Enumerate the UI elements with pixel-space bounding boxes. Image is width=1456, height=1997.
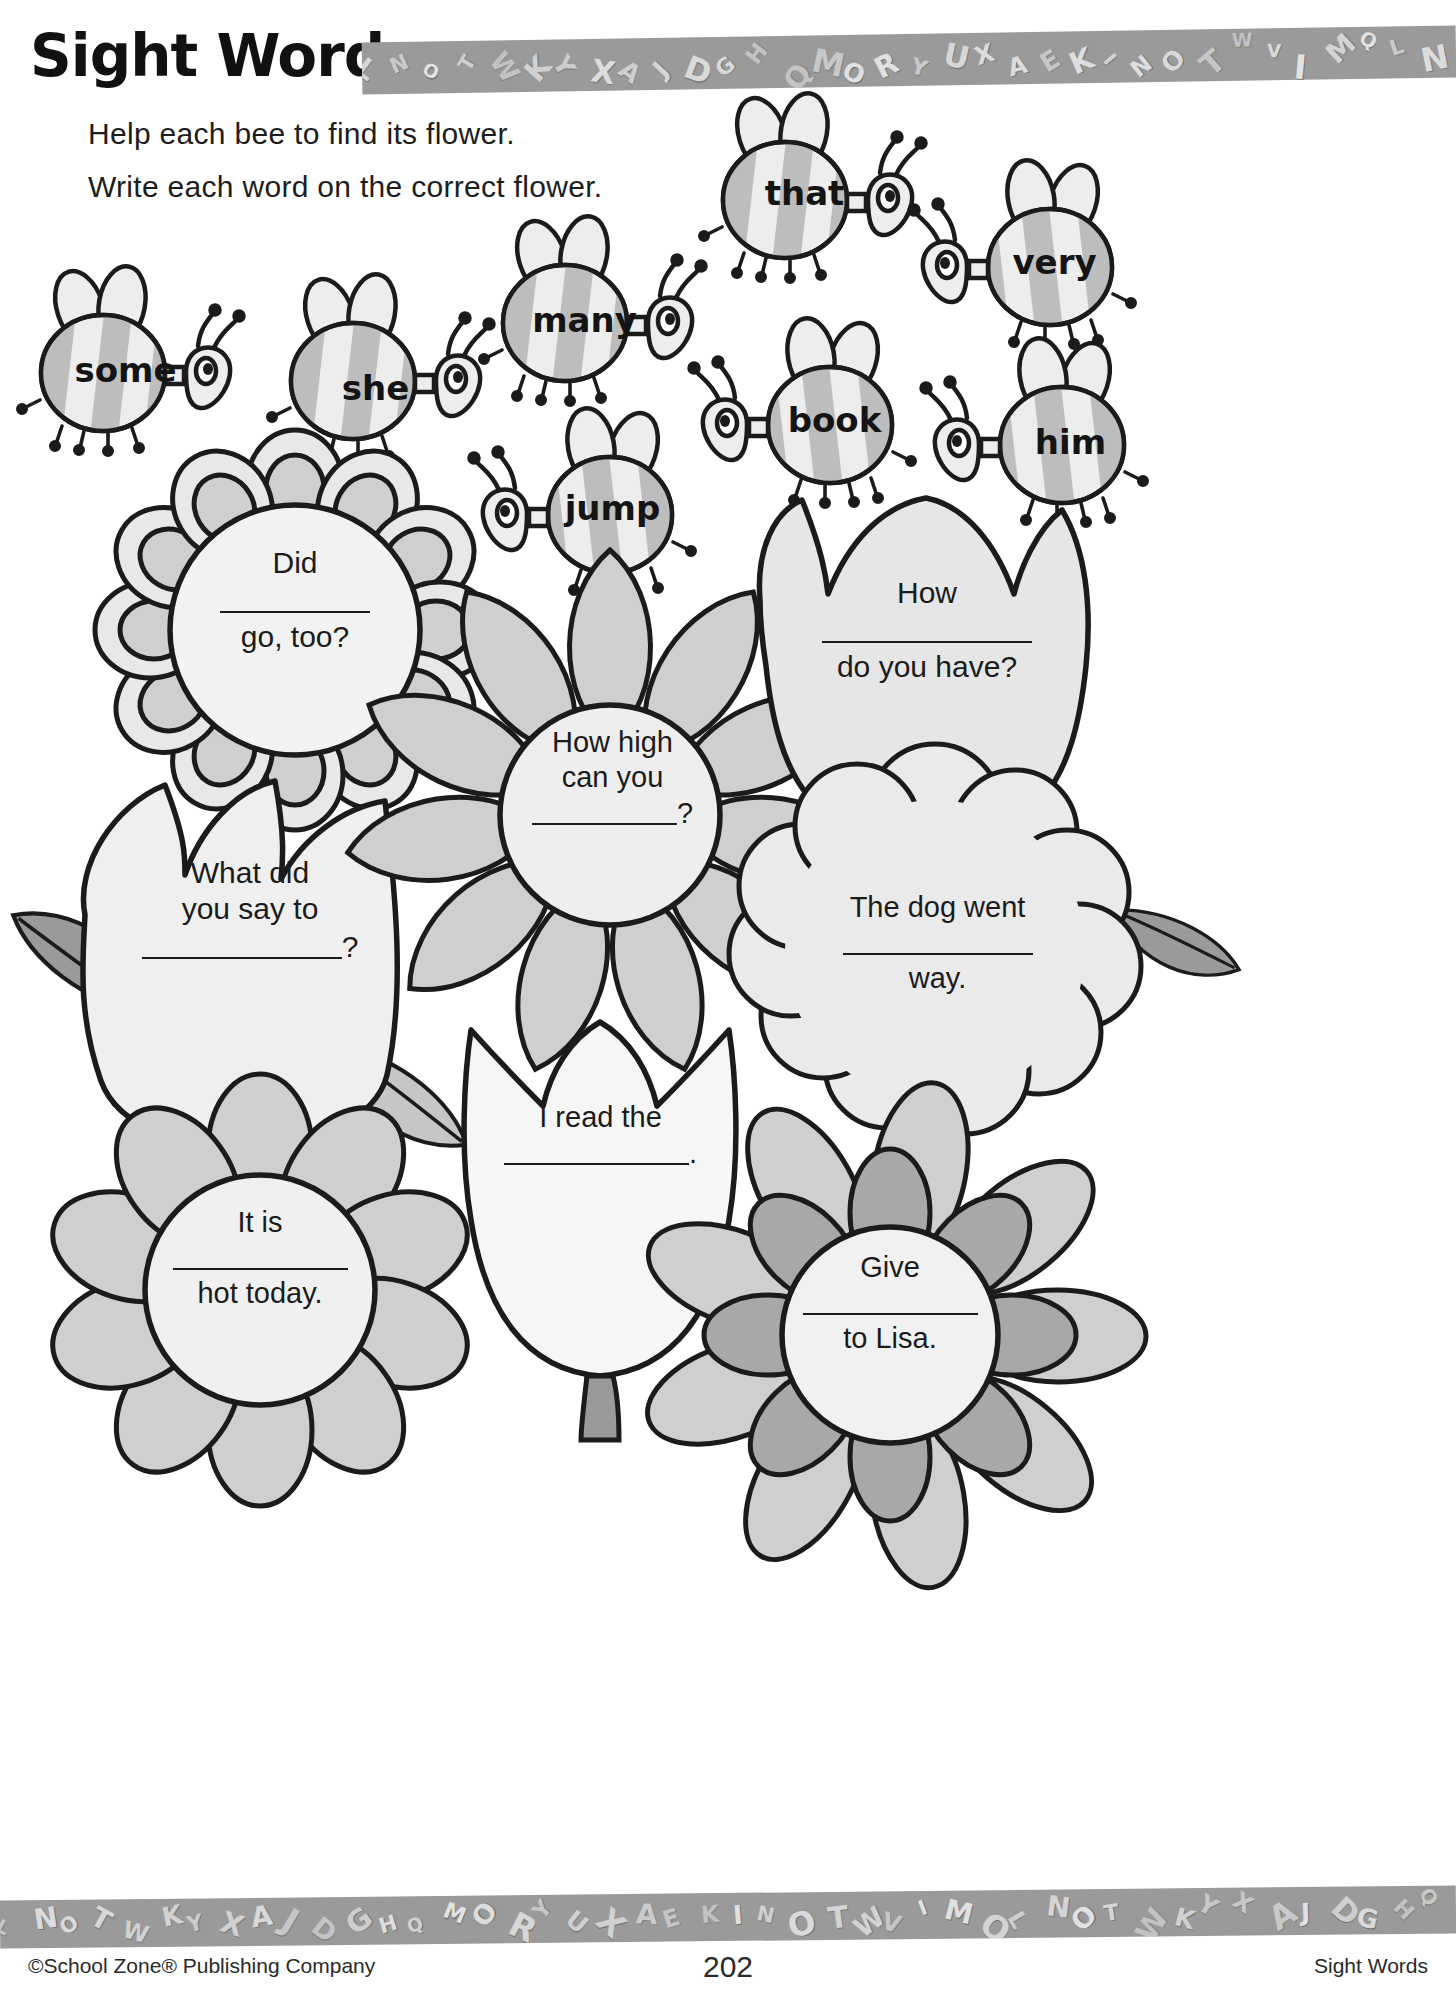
band-letter-glyph: X xyxy=(588,52,617,91)
band-letter-glyph: A xyxy=(613,55,646,90)
band-letter-glyph: R xyxy=(869,45,904,85)
band-letter-glyph: J xyxy=(275,1901,306,1941)
band-letter-glyph: X xyxy=(216,1905,248,1944)
band-letter-glyph: N xyxy=(755,1901,777,1928)
band-letter-glyph: N xyxy=(1045,1889,1072,1925)
instruction-line-1: Help each bee to find its flower. xyxy=(88,117,515,151)
band-letter-glyph: K xyxy=(159,1898,185,1932)
band-letter-glyph: T xyxy=(825,1898,850,1935)
band-letter-glyph: T xyxy=(1193,43,1232,83)
band-letter-glyph: Y xyxy=(907,52,930,82)
band-letter-glyph: O xyxy=(783,1902,819,1946)
band-letter-glyph: W xyxy=(1232,28,1254,51)
band-letter-glyph: W xyxy=(1128,1901,1175,1948)
band-letter-glyph: A xyxy=(1262,1892,1304,1938)
page-header: Sight Words LNOTWKYXAJDGHQMORYUXAEKINOTW… xyxy=(0,0,1456,110)
band-letter-glyph: O xyxy=(419,58,442,84)
band-letter-glyph: T xyxy=(453,51,481,75)
band-letter-glyph: Q xyxy=(404,1913,425,1938)
bee-that[interactable]: that xyxy=(700,95,925,275)
band-letter-glyph: O xyxy=(1155,43,1192,79)
page-number: 202 xyxy=(0,1950,1456,1984)
band-letter-glyph: H xyxy=(740,38,772,69)
band-letter-glyph: I xyxy=(1099,49,1121,69)
page-title: Sight Words xyxy=(30,22,418,90)
flower-daisy-it-is[interactable]: It ishot today. xyxy=(60,1085,470,1515)
band-letter-glyph: X xyxy=(589,1900,633,1945)
band-letter-glyph: U xyxy=(940,36,973,77)
page-footer: ©School Zone® Publishing Company 202 Sig… xyxy=(0,1942,1456,1997)
band-letter-glyph: E xyxy=(1035,43,1066,78)
band-letter-glyph: A xyxy=(248,1898,274,1934)
band-letter-glyph: I xyxy=(732,1900,744,1931)
band-letter-glyph: L xyxy=(362,51,384,86)
flower-daisy-give[interactable]: Giveto Lisa. xyxy=(675,1120,1115,1570)
bee-some[interactable]: some xyxy=(18,268,233,443)
band-letter-glyph: X xyxy=(1228,1886,1258,1919)
band-letter-glyph: T xyxy=(85,1900,118,1938)
bee-very[interactable]: very xyxy=(910,162,1135,342)
band-letter-glyph: M xyxy=(1319,27,1362,70)
band-letter-glyph: M xyxy=(942,1893,977,1932)
band-letter-glyph: I xyxy=(915,1896,931,1921)
band-letter-glyph: U xyxy=(560,1905,594,1940)
band-letter-glyph: Y xyxy=(1192,1889,1223,1923)
band-letter-glyph: I xyxy=(1292,47,1308,87)
band-letter-glyph: L xyxy=(1386,33,1406,61)
bee-book[interactable]: book xyxy=(690,320,915,500)
band-letter-glyph: K xyxy=(1172,1902,1198,1935)
band-letter-glyph: N xyxy=(1418,38,1452,81)
band-letter-glyph: G xyxy=(710,51,740,82)
band-letter-glyph: X xyxy=(971,38,998,72)
band-letter-glyph: O xyxy=(55,1910,83,1940)
alphabet-band-top-decoration: LNOTWKYXAJDGHQMORYUXAEKINOTWVIMQLN xyxy=(362,25,1456,94)
band-letter-glyph: K xyxy=(700,1900,720,1928)
band-letter-glyph: J xyxy=(1300,1898,1310,1927)
instruction-line-2: Write each word on the correct flower. xyxy=(88,170,602,204)
band-letter-glyph: N xyxy=(1125,49,1157,82)
band-letter-glyph: L xyxy=(0,1915,13,1939)
band-letter-glyph: O xyxy=(466,1896,504,1932)
band-letter-glyph: K xyxy=(1064,40,1099,81)
band-letter-glyph: A xyxy=(1004,49,1030,82)
bee-many[interactable]: many xyxy=(480,218,705,398)
band-letter-glyph: T xyxy=(1103,1899,1121,1926)
footer-section-label: Sight Words xyxy=(1314,1954,1428,1978)
band-letter-glyph: J xyxy=(647,56,675,83)
band-letter-glyph: N xyxy=(385,49,411,79)
alphabet-band-bottom-decoration: LNOTWKYXAJDGHQMORYUXAEKINOTWVIMQLNOTWKYX… xyxy=(0,1885,1456,1948)
band-letter-glyph: Y xyxy=(185,1909,206,1937)
band-letter-glyph: H xyxy=(376,1910,400,1939)
band-letter-glyph: V xyxy=(1267,40,1282,62)
band-letter-glyph: V xyxy=(878,1906,905,1939)
band-letter-glyph: G xyxy=(339,1900,379,1942)
band-letter-glyph: A xyxy=(636,1897,659,1931)
band-letter-glyph: E xyxy=(659,1903,683,1935)
band-letter-glyph: D xyxy=(679,49,716,92)
